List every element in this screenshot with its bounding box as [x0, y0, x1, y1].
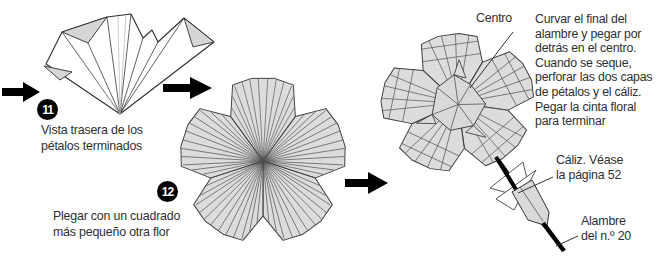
arrow-icon-3	[345, 172, 388, 194]
wire-stem-lower	[543, 223, 564, 251]
flat-flower	[174, 78, 351, 247]
assembled-flower	[367, 24, 549, 186]
step-badge-12: 12	[157, 181, 178, 202]
folded-petals-back-view	[44, 14, 214, 114]
arrow-icon-1	[2, 82, 40, 102]
arrow-icon-2	[163, 77, 212, 99]
label-caliz: Cáliz. Véase la página 52	[556, 153, 623, 183]
step11-caption: Vista trasera de los pétalos terminados	[41, 122, 143, 154]
step-badge-11: 11	[37, 99, 58, 120]
origami-instruction-figure: 11 12 Vista trasera de los pétalos termi…	[0, 0, 665, 257]
label-centro: Centro	[476, 10, 512, 26]
label-alambre: Alambre del n.º 20	[581, 214, 631, 244]
assembly-note: Curvar el final del alambre y pegar por …	[535, 12, 665, 129]
step12-caption: Plegar con un cuadrado más pequeño otra …	[53, 208, 180, 240]
